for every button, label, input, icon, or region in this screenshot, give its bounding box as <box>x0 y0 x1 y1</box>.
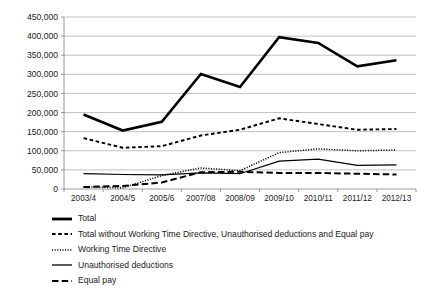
x-axis-tick-label: 2011/12 <box>343 194 372 203</box>
series-line <box>84 149 397 188</box>
x-axis-tickmarks <box>64 189 416 192</box>
y-axis-tick-label: 250,000 <box>27 89 58 99</box>
line-chart: 050,000100,000150,000200,000250,000300,0… <box>0 0 433 292</box>
y-axis-tick-label: 0 <box>53 184 58 194</box>
long-dash-swatch <box>52 275 72 287</box>
legend-item[interactable]: Working Time Directive <box>52 242 433 258</box>
legend-item[interactable]: Equal pay <box>52 273 433 289</box>
gridlines <box>61 17 416 189</box>
y-axis-tick-label: 100,000 <box>27 146 58 156</box>
y-axis-tick-label: 200,000 <box>27 108 58 118</box>
legend-item[interactable]: Total <box>52 211 433 227</box>
x-axis-tick-label: 2010/11 <box>304 194 333 203</box>
chart-plot-svg: 050,000100,000150,000200,000250,000300,0… <box>0 0 433 210</box>
y-axis-tick-label: 50,000 <box>32 165 59 175</box>
series-line <box>84 37 397 130</box>
y-axis-tick-label: 150,000 <box>27 127 58 137</box>
x-axis-tick-label: 2008/09 <box>225 194 255 203</box>
x-axis-tick-label: 2003/4 <box>71 194 96 203</box>
x-axis-tick-label: 2005/6 <box>149 194 174 203</box>
y-axis-tick-label: 300,000 <box>27 69 58 79</box>
y-axis-tick-labels: 050,000100,000150,000200,000250,000300,0… <box>27 12 58 194</box>
legend-item-label: Equal pay <box>78 276 116 285</box>
x-axis-tick-label: 2009/10 <box>264 194 294 203</box>
y-axis-tick-label: 350,000 <box>27 50 58 60</box>
legend-item[interactable]: Total without Working Time Directive, Un… <box>52 227 433 243</box>
legend-item-label: Working Time Directive <box>78 245 166 254</box>
x-axis-tick-label: 2004/5 <box>110 194 135 203</box>
short-dash-swatch <box>52 228 72 240</box>
legend-item-label: Unauthorised deductions <box>78 261 173 270</box>
y-axis-tick-label: 450,000 <box>27 12 58 22</box>
legend-item-label: Total without Working Time Directive, Un… <box>78 230 374 239</box>
y-axis-tick-label: 400,000 <box>27 31 58 41</box>
chart-legend: TotalTotal without Working Time Directiv… <box>52 211 433 289</box>
legend-item-label: Total <box>78 214 96 223</box>
dotted-swatch <box>52 244 72 256</box>
x-axis-tick-label: 2007/08 <box>186 194 216 203</box>
series-line <box>84 118 397 147</box>
x-axis-tick-label: 2012/13 <box>382 194 412 203</box>
x-axis-tick-labels: 2003/42004/52005/62007/082008/092009/102… <box>71 194 412 203</box>
solid-thin-swatch <box>52 259 72 271</box>
solid-thick-swatch <box>52 213 72 225</box>
legend-item[interactable]: Unauthorised deductions <box>52 258 433 274</box>
